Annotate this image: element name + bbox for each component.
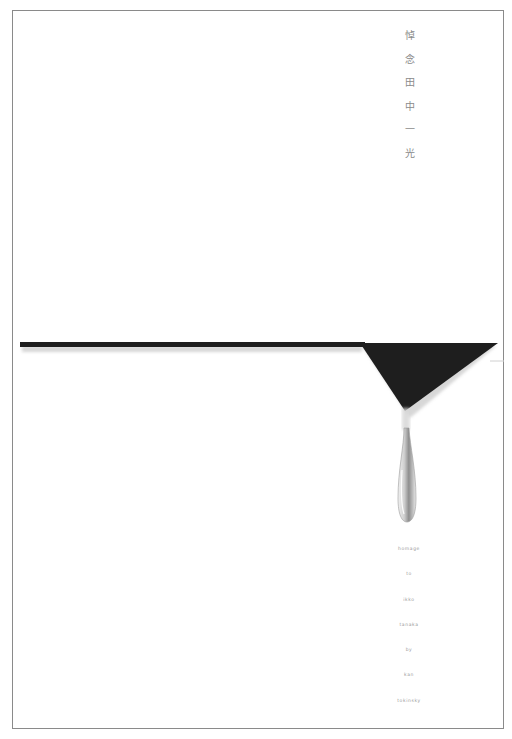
horizontal-bar	[20, 342, 365, 347]
credits-block: homage to ikko tanaka by kan tokinsky	[372, 544, 446, 721]
credit-line: tanaka	[399, 620, 418, 645]
credit-line: ikko	[403, 595, 414, 620]
credit-line: homage	[398, 544, 420, 569]
credit-line: by	[406, 645, 413, 670]
water-drop	[398, 428, 416, 522]
credit-line: kan	[404, 670, 414, 695]
credit-line: tokinsky	[397, 696, 420, 721]
credit-line: to	[406, 569, 412, 594]
